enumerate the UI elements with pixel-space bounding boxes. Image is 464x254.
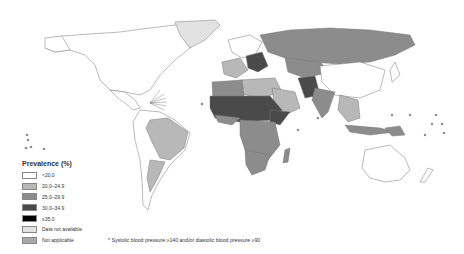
region-india	[312, 88, 335, 118]
legend: Prevalence (%) <20.0 20.0–24.9 25.0–29.9…	[22, 160, 82, 246]
region-madagascar	[283, 148, 290, 163]
footnote: * Systolic blood pressure ≥140 and/or di…	[108, 237, 260, 243]
legend-item: 30.0–34.9	[22, 202, 82, 213]
caribbean-callouts	[150, 90, 167, 110]
legend-item: 25.0–29.9	[22, 192, 82, 203]
region-png	[385, 126, 405, 136]
legend-item: 20.0–24.9	[22, 181, 82, 192]
legend-title: Prevalence (%)	[22, 160, 82, 167]
legend-item: ≥35.0	[22, 213, 82, 224]
region-japan	[390, 62, 400, 82]
legend-swatch	[22, 204, 37, 211]
legend-swatch	[22, 215, 37, 222]
region-new-zealand	[420, 168, 433, 182]
region-europe-east	[246, 52, 268, 72]
legend-item: <20.0	[22, 170, 82, 181]
legend-swatch	[22, 183, 37, 190]
legend-swatch	[22, 237, 37, 244]
legend-swatch	[22, 172, 37, 179]
region-europe-west	[222, 58, 248, 78]
legend-item: Not applicable	[22, 235, 82, 246]
region-russia	[260, 28, 415, 64]
legend-swatch	[22, 193, 37, 200]
region-southeast-asia	[338, 95, 360, 122]
region-australia	[362, 145, 410, 182]
legend-item: Data not available	[22, 224, 82, 235]
legend-swatch	[22, 226, 37, 233]
